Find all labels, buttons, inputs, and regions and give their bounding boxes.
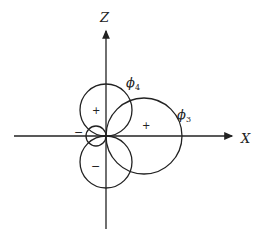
x-axis-label: X <box>240 131 251 146</box>
right-lobe-sign: + <box>142 120 150 131</box>
phi3-label: ϕ3 <box>177 107 191 124</box>
z-axis-label: Z <box>99 10 110 25</box>
left-small-lobe-sign: − <box>74 126 83 139</box>
orbital-diagram: Z X ϕ4 ϕ3 + − + − <box>0 0 263 238</box>
top-lobe-sign: + <box>92 105 100 116</box>
phi4-label: ϕ4 <box>126 75 140 92</box>
bottom-lobe-sign: − <box>91 160 100 173</box>
